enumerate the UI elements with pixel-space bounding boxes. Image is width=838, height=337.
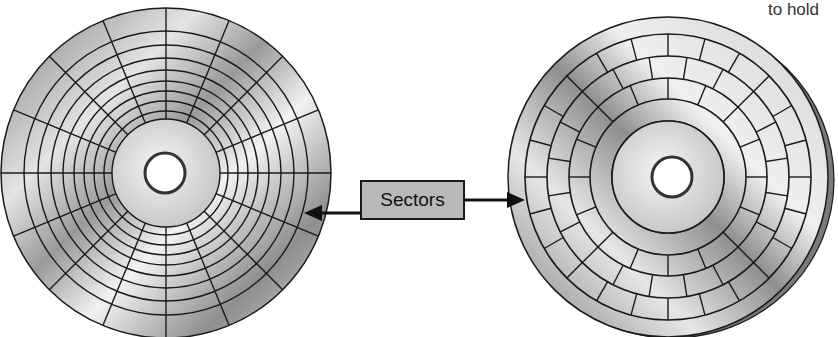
left-disk-spindle-hole (145, 153, 185, 193)
sectors-label: Sectors (360, 180, 465, 220)
right-disk-spindle-hole (652, 157, 692, 197)
sectors-label-text: Sectors (380, 189, 444, 211)
right-disk (508, 17, 834, 337)
left-disk (1, 8, 331, 337)
caption-fragment: to hold (768, 0, 819, 20)
diagram-canvas (0, 0, 838, 337)
